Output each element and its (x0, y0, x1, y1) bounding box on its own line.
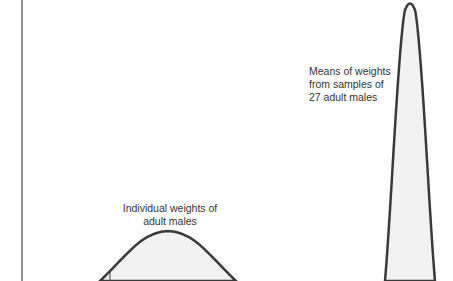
individual-weights-curve (100, 231, 236, 281)
distribution-chart (0, 0, 453, 281)
label-line: Means of weights (309, 65, 409, 78)
label-line: Individual weights of (105, 202, 235, 215)
sample-means-label: Means of weights from samples of 27 adul… (309, 65, 409, 104)
label-line: 27 adult males (309, 91, 409, 104)
sample-means-curve (385, 4, 435, 281)
label-line: from samples of (309, 78, 409, 91)
individual-weights-label: Individual weights of adult males (105, 202, 235, 228)
label-line: adult males (105, 215, 235, 228)
